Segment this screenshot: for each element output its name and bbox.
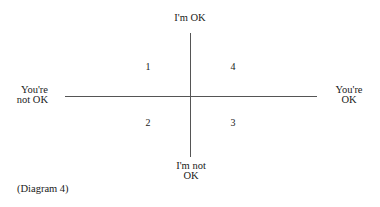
diagram-caption: (Diagram 4) bbox=[17, 184, 69, 194]
quadrant-4-label: 4 bbox=[231, 62, 236, 72]
left-axis-label-line2: not OK bbox=[10, 95, 48, 105]
quadrant-1-label: 1 bbox=[146, 62, 151, 72]
right-axis-label: You're OK bbox=[335, 85, 362, 105]
top-axis-label-line: I'm OK bbox=[174, 13, 205, 23]
quadrant-3-label: 3 bbox=[231, 118, 236, 128]
horizontal-axis bbox=[65, 96, 317, 97]
vertical-axis bbox=[190, 33, 191, 157]
bottom-axis-label-line2: OK bbox=[176, 171, 206, 181]
top-axis-label: I'm OK bbox=[174, 13, 205, 23]
left-axis-label: You're not OK bbox=[10, 85, 48, 105]
quadrant-2-label: 2 bbox=[146, 118, 151, 128]
bottom-axis-label: I'm not OK bbox=[176, 161, 206, 181]
right-axis-label-line2: OK bbox=[335, 95, 362, 105]
